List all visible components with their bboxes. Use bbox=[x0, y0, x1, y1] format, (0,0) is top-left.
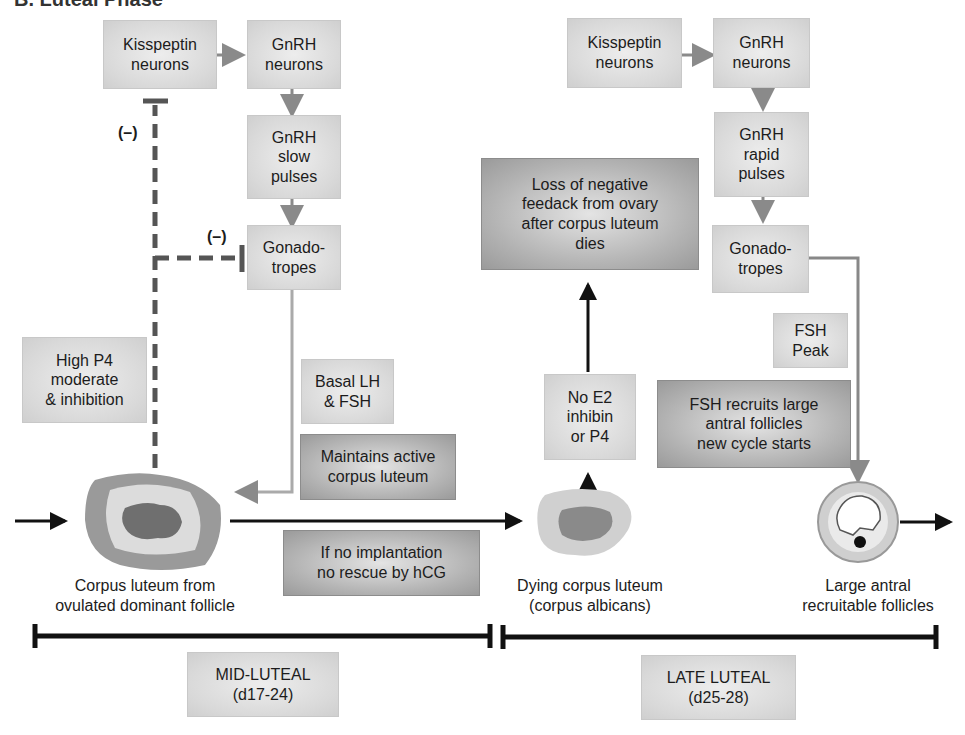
oocyte bbox=[854, 536, 866, 548]
gnrh-slow-pulses: GnRH slow pulses bbox=[247, 115, 341, 199]
corpus-luteum-core bbox=[122, 503, 182, 539]
gonadotropes-mid: Gonado- tropes bbox=[247, 225, 341, 290]
gnrh-neurons-mid: GnRH neurons bbox=[247, 20, 341, 89]
no-e2-inhibin-box: No E2 inhibin or P4 bbox=[544, 374, 636, 460]
arrow-lh-fsh-to-cl bbox=[240, 290, 292, 492]
loss-negative-feedback-box: Loss of negative feedack from ovary afte… bbox=[481, 158, 699, 270]
mid-luteal-phase-label: MID-LUTEAL (d17-24) bbox=[187, 652, 339, 717]
no-implantation-box: If no implantation no rescue by hCG bbox=[283, 530, 480, 596]
kisspeptin-neurons-late: Kisspeptin neurons bbox=[567, 18, 682, 88]
maintains-cl-box: Maintains active corpus luteum bbox=[300, 434, 456, 500]
fsh-peak-box: FSH Peak bbox=[773, 313, 848, 368]
fsh-recruits-box: FSH recruits large antral follicles new … bbox=[657, 380, 851, 468]
kisspeptin-neurons-mid: Kisspeptin neurons bbox=[103, 20, 217, 89]
gonadotropes-late: Gonado- tropes bbox=[712, 225, 809, 293]
corpus-luteum-label: Corpus luteum from ovulated dominant fol… bbox=[30, 576, 260, 615]
dying-corpus-luteum-label: Dying corpus luteum (corpus albicans) bbox=[500, 576, 680, 615]
basal-lh-fsh-box: Basal LH & FSH bbox=[301, 359, 394, 424]
late-luteal-phase-label: LATE LUTEAL (d25-28) bbox=[641, 655, 796, 720]
antral-follicles-label: Large antral recruitable follicles bbox=[778, 576, 958, 615]
negative-feedback-kisspeptin: (–) bbox=[118, 124, 138, 142]
high-p4-box: High P4 moderate & inhibition bbox=[22, 337, 147, 423]
gnrh-neurons-late: GnRH neurons bbox=[713, 18, 810, 88]
gnrh-rapid-pulses: GnRH rapid pulses bbox=[714, 112, 809, 197]
negative-feedback-gonadotropes: (–) bbox=[207, 228, 227, 246]
